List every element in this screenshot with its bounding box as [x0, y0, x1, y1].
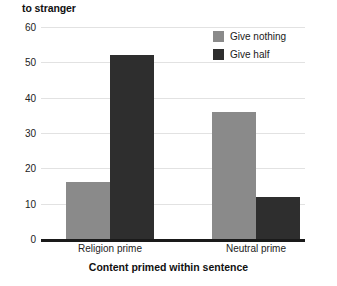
bar	[66, 182, 110, 239]
y-axis-tick-label: 60	[10, 22, 36, 33]
legend: Give nothing Give half	[213, 29, 286, 65]
legend-swatch-icon	[213, 31, 224, 42]
gridline	[41, 27, 305, 28]
legend-item: Give nothing	[213, 29, 286, 44]
legend-item-label: Give half	[230, 49, 269, 60]
x-axis-line	[41, 239, 305, 242]
legend-item: Give half	[213, 47, 286, 62]
bar	[212, 112, 256, 239]
y-axis-tick-label: 0	[10, 234, 36, 245]
legend-swatch-icon	[213, 49, 224, 60]
legend-item-label: Give nothing	[230, 31, 286, 42]
x-axis-category-label: Neutral prime	[226, 243, 286, 254]
gridline	[41, 133, 305, 134]
chart-title: to stranger	[22, 2, 76, 14]
y-axis-tick-label: 20	[10, 163, 36, 174]
y-axis-tick-label: 50	[10, 57, 36, 68]
y-axis-tick-label: 30	[10, 128, 36, 139]
bar-chart: to stranger 0102030405060 Religion prime…	[0, 0, 337, 286]
x-axis-title: Content primed within sentence	[0, 261, 337, 273]
bar	[256, 197, 300, 239]
y-axis-tick-label: 40	[10, 92, 36, 103]
y-axis-tick-label: 10	[10, 198, 36, 209]
gridline	[41, 168, 305, 169]
gridline	[41, 98, 305, 99]
bar	[110, 55, 154, 239]
x-axis-category-label: Religion prime	[78, 243, 142, 254]
